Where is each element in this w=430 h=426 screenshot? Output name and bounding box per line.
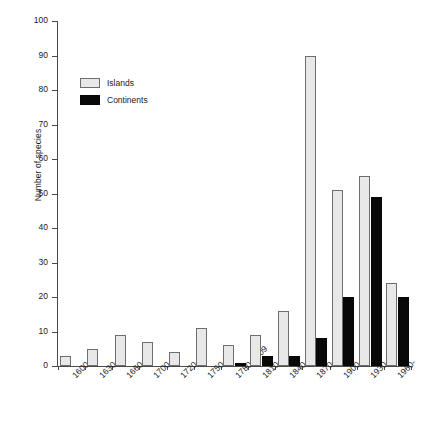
bar-islands	[87, 349, 98, 366]
y-axis-tick-label: 10	[16, 327, 48, 336]
bar-islands	[250, 335, 261, 366]
bar-islands	[115, 335, 126, 366]
bar-islands	[305, 56, 316, 367]
legend-label-islands: Islands	[107, 78, 134, 88]
bar-islands	[223, 345, 234, 366]
y-axis-tick-label: 30	[16, 258, 48, 267]
legend-swatch-islands-icon	[80, 78, 100, 88]
bar-islands	[196, 328, 207, 366]
legend-item-continents: Continents	[80, 93, 148, 107]
y-axis-tick	[52, 332, 57, 333]
y-axis-tick-label: 0	[16, 361, 48, 370]
bar-continents	[316, 338, 327, 366]
bar-continents	[262, 356, 273, 366]
y-axis-tick	[52, 297, 57, 298]
bar-continents	[235, 363, 246, 366]
y-axis-tick-label: 60	[16, 154, 48, 163]
y-axis-tick	[52, 56, 57, 57]
y-axis-tick-label: 50	[16, 189, 48, 198]
y-axis-tick	[52, 263, 57, 264]
bar-islands	[332, 190, 343, 366]
y-axis-tick-label: 100	[16, 16, 48, 25]
y-axis-tick	[52, 90, 57, 91]
y-axis-tick-label: 40	[16, 223, 48, 232]
bar-continents	[343, 297, 354, 366]
y-axis-tick-label: 70	[16, 120, 48, 129]
bar-islands	[169, 352, 180, 366]
chart-legend: Islands Continents	[80, 76, 148, 110]
legend-item-islands: Islands	[80, 76, 148, 90]
y-axis-tick	[52, 228, 57, 229]
y-axis-tick-label: 90	[16, 51, 48, 60]
y-axis-tick-label: 20	[16, 292, 48, 301]
y-axis-tick	[52, 159, 57, 160]
bar-islands	[278, 311, 289, 366]
bar-continents	[371, 197, 382, 366]
bar-islands	[386, 283, 397, 366]
y-axis-tick	[52, 21, 57, 22]
bar-continents	[398, 297, 409, 366]
legend-label-continents: Continents	[107, 95, 148, 105]
bar-continents	[289, 356, 300, 366]
bar-islands	[359, 176, 370, 366]
bar-islands	[60, 356, 71, 366]
y-axis-tick	[52, 125, 57, 126]
y-axis-tick-label: 80	[16, 85, 48, 94]
x-axis-tick	[58, 366, 59, 370]
species-bar-chart: Number of species 0102030405060708090100…	[0, 0, 430, 426]
y-axis-tick	[52, 194, 57, 195]
plot-area	[58, 21, 411, 366]
legend-swatch-continents-icon	[80, 95, 100, 105]
bar-islands	[142, 342, 153, 366]
